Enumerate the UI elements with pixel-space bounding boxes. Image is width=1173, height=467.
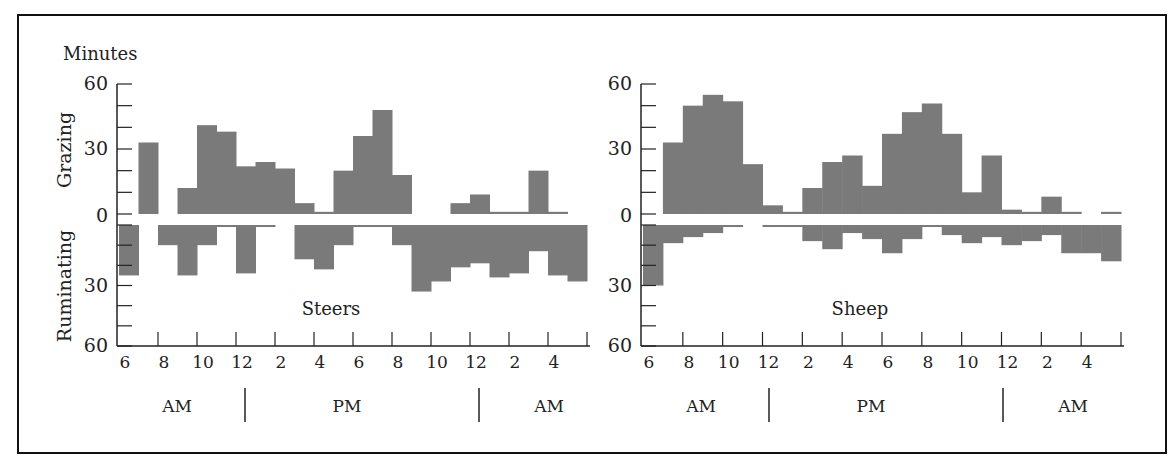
- grazing-bar: [942, 134, 962, 214]
- grazing-bar: [217, 132, 237, 214]
- x-tick-label: 12: [758, 352, 780, 372]
- ruminating-bar: [1101, 225, 1121, 261]
- x-tick-label: 8: [922, 352, 933, 372]
- grazing-bar: [683, 106, 703, 214]
- x-tick-label: 6: [883, 352, 894, 372]
- ruminating-bar: [822, 225, 842, 249]
- grazing-bar: [802, 188, 822, 214]
- ruminating-bar: [942, 225, 962, 235]
- y-tick-label: 60: [608, 72, 632, 94]
- ruminating-bar: [902, 225, 922, 239]
- ruminating-bar: [842, 225, 862, 233]
- grazing-bar: [982, 156, 1002, 215]
- y-tick-label: 30: [84, 137, 108, 159]
- period-label-pm: PM: [857, 396, 886, 416]
- ruminating-bar: [470, 225, 490, 263]
- grazing-bar: [882, 134, 902, 214]
- grazing-bar: [197, 125, 217, 214]
- grazing-bar: [353, 136, 373, 214]
- x-tick-label: 12: [465, 352, 487, 372]
- x-tick-label: 10: [718, 352, 740, 372]
- y-tick-label: 0: [96, 204, 108, 226]
- x-tick-label: 2: [276, 352, 287, 372]
- ruminating-bar: [1061, 225, 1081, 253]
- ruminating-bar: [703, 225, 723, 233]
- period-label-pm: PM: [333, 396, 362, 416]
- grazing-bar: [295, 203, 315, 214]
- x-tick-label: 8: [683, 352, 694, 372]
- ruminating-bar: [236, 225, 256, 273]
- ruminating-bar: [373, 225, 393, 227]
- grazing-bar: [275, 169, 295, 215]
- ruminating-bar: [490, 225, 510, 277]
- x-tick-label: 2: [803, 352, 814, 372]
- x-tick-label: 6: [644, 352, 655, 372]
- panel-title: Steers: [302, 298, 361, 319]
- grazing-bar: [1041, 197, 1061, 214]
- grazing-bar: [703, 95, 723, 214]
- grazing-bar: [509, 212, 529, 214]
- ruminating-bar: [178, 225, 198, 275]
- x-tick-label: 12: [231, 352, 253, 372]
- y-tick-label: 60: [84, 72, 108, 94]
- panel-title: Sheep: [832, 298, 889, 319]
- x-tick-label: 2: [510, 352, 521, 372]
- ruminating-bar: [548, 225, 568, 275]
- period-label-am: AM: [1057, 396, 1088, 416]
- grazing-bar: [1061, 212, 1081, 214]
- grazing-bar: [256, 162, 276, 214]
- grazing-bar: [139, 143, 159, 215]
- grazing-bar: [373, 110, 393, 214]
- grazing-bar: [334, 171, 354, 214]
- y-tick-label: 30: [608, 137, 632, 159]
- period-label-am: AM: [685, 396, 716, 416]
- grazing-bar: [902, 112, 922, 214]
- ruminating-bar: [643, 225, 663, 286]
- grazing-bar: [663, 143, 683, 215]
- grazing-bar: [763, 205, 783, 214]
- grazing-bar: [490, 212, 510, 214]
- x-tick-label: 4: [315, 352, 326, 372]
- x-tick-label: 4: [1082, 352, 1093, 372]
- x-tick-label: 10: [957, 352, 979, 372]
- ruminating-bar: [568, 225, 588, 281]
- x-tick-label: 4: [549, 352, 560, 372]
- ruminating-bar: [295, 225, 315, 259]
- period-label-am: AM: [161, 396, 192, 416]
- y-tick-label: 60: [84, 334, 108, 356]
- grazing-bar: [236, 166, 256, 214]
- x-tick-label: 10: [192, 352, 214, 372]
- grazing-bar: [862, 186, 882, 214]
- y-tick-label: 30: [84, 274, 108, 296]
- x-tick-label: 12: [997, 352, 1019, 372]
- y-unit-label: Minutes: [63, 43, 138, 64]
- grazing-bar: [314, 212, 334, 214]
- ruminating-bar: [451, 225, 471, 267]
- ruminating-bar: [509, 225, 529, 273]
- ruminating-bar: [217, 225, 237, 227]
- y-tick-label: 0: [620, 204, 632, 226]
- grazing-bar: [451, 203, 471, 214]
- ruminating-bar: [334, 225, 354, 245]
- grazing-ruminating-chart: 6810122468101224603003060SteersAMPMAM681…: [0, 0, 1173, 467]
- grazing-bar: [470, 195, 490, 215]
- y-tick-label: 60: [608, 334, 632, 356]
- grazing-bar: [822, 162, 842, 214]
- ruminating-bar: [1081, 225, 1101, 253]
- ruminating-bar: [158, 225, 178, 245]
- ruminating-bar: [431, 225, 451, 281]
- grazing-bar: [842, 156, 862, 215]
- x-tick-label: 4: [843, 352, 854, 372]
- grazing-bar: [178, 188, 198, 214]
- x-tick-label: 8: [393, 352, 404, 372]
- panel-steers: 6810122468101224603003060SteersAMPMAM: [84, 72, 590, 422]
- ruminating-bar: [412, 225, 432, 292]
- ruminating-bar: [962, 225, 982, 243]
- ruminating-bar: [723, 225, 743, 227]
- grazing-bar: [743, 164, 763, 214]
- ruminating-bar: [862, 225, 882, 239]
- ruminating-bar: [683, 225, 703, 237]
- y-tick-label: 30: [608, 274, 632, 296]
- grazing-bar: [1101, 212, 1121, 214]
- ruminating-bar: [1041, 225, 1061, 235]
